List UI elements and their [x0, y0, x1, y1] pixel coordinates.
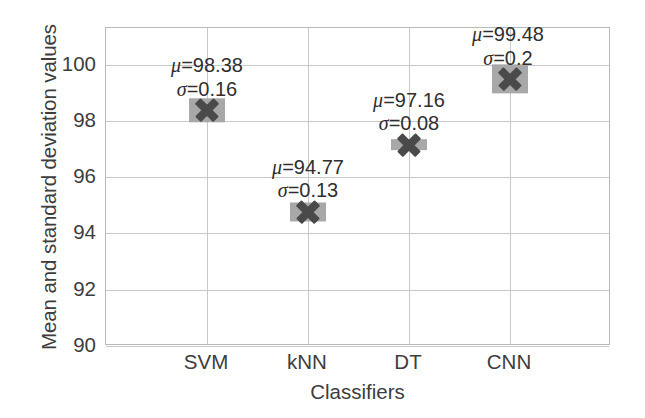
- error-band-knn: [290, 202, 326, 221]
- annotation-mean-cnn: μ=99.48: [472, 23, 544, 47]
- annotation-sigma-svm: σ=0.16: [171, 78, 243, 102]
- gridline-x-dt: [409, 28, 410, 344]
- y-tick-label-94: 94: [30, 222, 96, 243]
- y-tick-label-90: 90: [30, 335, 96, 356]
- error-band-dt: [391, 139, 427, 151]
- annotation-sigma-cnn: σ=0.2: [472, 47, 544, 71]
- y-tick-label-100: 100: [30, 53, 96, 74]
- annotation-mean-dt: μ=97.16: [373, 89, 445, 113]
- annotation-cnn: μ=99.48σ=0.2: [472, 23, 544, 70]
- annotation-dt: μ=97.16σ=0.08: [373, 89, 445, 136]
- annotation-sigma-dt: σ=0.08: [373, 112, 445, 136]
- x-tick-label-cnn: CNN: [449, 352, 569, 373]
- annotation-svm: μ=98.38σ=0.16: [171, 54, 243, 101]
- gridline-y-94: [106, 233, 609, 234]
- annotation-sigma-knn: σ=0.13: [272, 179, 344, 203]
- gridline-y-90: [106, 346, 609, 347]
- annotation-mean-knn: μ=94.77: [272, 156, 344, 180]
- error-band-svm: [189, 98, 225, 121]
- plot-area: μ=98.38σ=0.16μ=94.77σ=0.13μ=97.16σ=0.08μ…: [105, 27, 610, 345]
- x-axis-title: Classifiers: [105, 380, 610, 404]
- annotation-mean-svm: μ=98.38: [171, 54, 243, 78]
- gridline-y-92: [106, 290, 609, 291]
- chart-figure: Mean and standard deviation values 90929…: [0, 0, 645, 418]
- y-tick-label-98: 98: [30, 110, 96, 131]
- y-tick-label-96: 96: [30, 166, 96, 187]
- y-tick-label-92: 92: [30, 278, 96, 299]
- gridline-y-96: [106, 177, 609, 178]
- annotation-knn: μ=94.77σ=0.13: [272, 156, 344, 203]
- gridline-y-98: [106, 121, 609, 122]
